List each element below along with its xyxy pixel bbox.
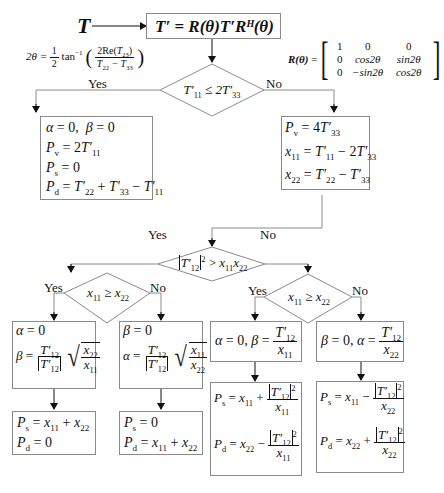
result-RR: Ps = x11 − T′122x22 Pd = x22 + T′122x22 [316, 381, 404, 473]
decision-3-left-condition: x11 ≥ x22 [80, 285, 136, 301]
result-LL: Ps = x11 + x22 Pd = 0 [12, 411, 96, 455]
result-LR: Ps = 0 Pd = x11 + x22 [119, 411, 203, 455]
box-LR-beta-alpha: β = 0 α = T′12T′12 √x11x22 [119, 321, 203, 389]
input-symbol: T [77, 15, 90, 37]
result-RL: Ps = x11 + T′122x11 Pd = x22 − T′122x11 [210, 382, 302, 476]
decision-1-yes-label: Yes [88, 78, 107, 90]
decision-2-yes-label: Yes [148, 229, 167, 241]
transform-equation: T′ = R(θ)T′Rᴴ(θ) [155, 17, 274, 37]
box-RL-alpha-beta: α = 0, β = T′12x11 [210, 321, 302, 362]
decision-1-condition: T′11 ≤ 2T′33 [180, 82, 244, 98]
decision-3-right-no-label: No [352, 285, 368, 297]
box-LL-alpha-beta: α = 0 β = T′12T′12 √x22x11 [12, 321, 96, 389]
decision-3-left-no-label: No [150, 282, 166, 294]
decision-2-no-label: No [260, 229, 276, 241]
transform-box: T′ = R(θ)T′Rᴴ(θ) [146, 13, 281, 39]
decision-3-left-yes-label: Yes [44, 282, 63, 294]
rotation-matrix: R(θ) = [ 100 0cos2θsin2θ 0−sin2θcos2θ ] [288, 36, 444, 82]
decision-2-condition: T′122 > x11x22 [176, 255, 250, 271]
box-RR-beta-alpha: β = 0, α = T′12x22 [316, 321, 404, 362]
decision-1-no-label: No [266, 78, 282, 90]
box-no-branch-1: Pv = 4T′33 x11 = T′11 − 2T′33 x22 = T′22… [281, 116, 370, 190]
box-yes-branch-1: α = 0, β = 0 Pv = 2T′11 Ps = 0 Pd = T′22… [40, 116, 153, 200]
decision-3-right-condition: x11 ≥ x22 [284, 289, 334, 305]
decision-3-right-yes-label: Yes [248, 285, 267, 297]
angle-formula: 2θ = 12 tan−1 ( 2Re(T23) T22 − T33 ) [26, 46, 144, 69]
